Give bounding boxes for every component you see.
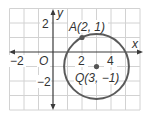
coordinate-plane: x y O −2 2 4 2 −2 A(2, 1) Q(3, −1): [0, 0, 147, 114]
y-axis: [51, 9, 56, 110]
origin-label: O: [39, 54, 48, 68]
point-a: [79, 35, 84, 40]
point-q-label: Q(3, −1): [75, 71, 119, 85]
tick-label-x-4: 4: [107, 54, 114, 68]
x-axis: [9, 50, 143, 55]
x-axis-label: x: [131, 37, 139, 51]
point-a-label: A(2, 1): [68, 20, 105, 34]
tick-label-y-neg2: −2: [37, 75, 51, 89]
y-axis-down-arrow-icon: [51, 104, 56, 110]
tick-label-x-neg2: −2: [10, 54, 24, 68]
point-q: [94, 64, 99, 69]
y-axis-up-arrow-icon: [51, 9, 56, 15]
tick-label-y-2: 2: [42, 17, 49, 31]
tick-label-x-2: 2: [78, 54, 85, 68]
y-axis-label: y: [56, 6, 64, 20]
